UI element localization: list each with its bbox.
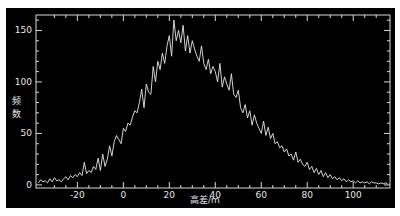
x-tick-label: 100: [345, 190, 362, 200]
y-tick-label: 100: [15, 77, 32, 87]
y-tick-label: 0: [26, 180, 32, 190]
plot-border: [36, 15, 390, 188]
y-tick-label: 150: [15, 25, 32, 35]
y-axis-ticks: 050100150: [15, 20, 390, 190]
x-axis-label: 高差/m: [190, 194, 220, 205]
x-tick-label: -20: [70, 190, 85, 200]
x-tick-label: 60: [256, 190, 268, 200]
histogram-line-chart: 050100150 -20020406080100 频 数 高差/m: [0, 0, 400, 216]
y-axis-label-char-1: 频: [12, 95, 21, 106]
series-line: [38, 20, 387, 184]
y-axis-label-char-2: 数: [12, 108, 21, 119]
x-tick-label: 0: [120, 190, 126, 200]
data-series: [38, 20, 387, 184]
y-tick-label: 50: [21, 128, 33, 138]
plot-frame: [36, 15, 390, 188]
x-tick-label: 80: [302, 190, 314, 200]
x-tick-label: 20: [164, 190, 176, 200]
x-axis-ticks: -20020406080100: [54, 15, 376, 200]
